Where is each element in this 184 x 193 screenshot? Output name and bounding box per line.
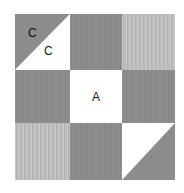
cell-middle-left-dark <box>15 70 70 123</box>
cell-bottom-right-triangle <box>122 123 175 180</box>
half-square-triangle-shape <box>122 123 175 180</box>
half-square-triangle-shape <box>15 14 70 70</box>
cell-top-right-light <box>122 14 175 70</box>
cell-bottom-left-light <box>15 123 70 180</box>
label-c-dark-triangle: C <box>28 27 37 39</box>
cell-middle-right-dark <box>122 70 175 123</box>
quilt-block-diagram: C C A <box>15 14 175 180</box>
label-a: A <box>92 91 100 103</box>
cell-top-left-triangle: C C <box>15 14 70 70</box>
label-c-white-triangle: C <box>44 45 53 57</box>
cell-bottom-middle-dark <box>70 123 122 180</box>
cell-center-white: A <box>70 70 122 123</box>
cell-top-middle-dark <box>70 14 122 70</box>
